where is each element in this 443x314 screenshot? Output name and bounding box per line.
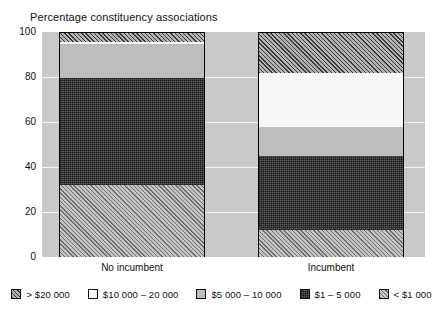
legend-swatch-icon [88,289,98,299]
legend-swatch-icon [379,289,389,299]
bar-segment-1-5000[interactable] [259,156,403,230]
bar-segment-5000-10000[interactable] [60,44,204,78]
plot-area [42,32,425,257]
y-axis-tick-80: 80 [25,72,36,82]
bar-segment-lt-1000[interactable] [259,230,403,257]
legend-item-1-5000[interactable]: $1 – 5 000 [300,289,361,300]
legend-swatch-icon [196,289,206,299]
y-axis: 100 80 60 40 20 0 [0,32,42,257]
legend: > $20 000 $10 000 – 20 000 $5 000 – 10 0… [0,285,443,303]
bar-segment-5000-10000[interactable] [259,127,403,156]
legend-label: < $1 000 [394,289,432,300]
bar-segment-gt-20000[interactable] [60,33,204,42]
bar-segment-lt-1000[interactable] [60,185,204,257]
stacked-bar-chart: Percentage constituency associations 100… [0,0,443,314]
bar-segment-10000-20000[interactable] [60,42,204,44]
legend-item-gt-20000[interactable]: > $20 000 [11,289,69,300]
x-axis-label-no-incumbent: No incumbent [101,262,163,273]
legend-swatch-icon [300,289,310,299]
y-axis-tick-40: 40 [25,162,36,172]
y-axis-tick-100: 100 [19,27,36,37]
legend-item-10000-20000[interactable]: $10 000 – 20 000 [88,289,179,300]
bar-incumbent[interactable] [258,32,404,257]
x-axis-label-incumbent: Incumbent [308,262,355,273]
legend-item-lt-1000[interactable]: < $1 000 [379,289,432,300]
legend-label: $10 000 – 20 000 [103,289,179,300]
bar-no-incumbent[interactable] [59,32,205,257]
chart-title: Percentage constituency associations [30,11,218,23]
bar-segment-10000-20000[interactable] [259,73,403,127]
legend-label: > $20 000 [26,289,69,300]
legend-label: $5 000 – 10 000 [211,289,281,300]
legend-label: $1 – 5 000 [315,289,361,300]
y-axis-tick-20: 20 [25,207,36,217]
y-axis-tick-60: 60 [25,117,36,127]
legend-item-5000-10000[interactable]: $5 000 – 10 000 [196,289,281,300]
legend-swatch-icon [11,289,21,299]
bar-segment-1-5000[interactable] [60,78,204,186]
bar-segment-gt-20000[interactable] [259,33,403,73]
y-axis-tick-0: 0 [30,252,36,262]
